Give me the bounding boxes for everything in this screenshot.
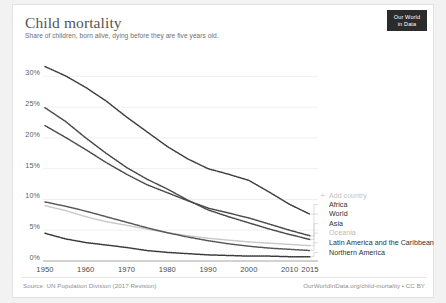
chart-card: Child mortality Share of children, born … xyxy=(12,4,434,298)
add-country-label: Add country xyxy=(329,191,367,201)
source-note: Source: UN Population Division (2017 Rev… xyxy=(23,282,157,289)
legend-item-oceania[interactable]: Oceania xyxy=(319,229,445,239)
add-country-button[interactable]: +Add country xyxy=(319,191,445,201)
legend-item-label: Oceania xyxy=(329,229,356,239)
legend-item-world[interactable]: World xyxy=(319,210,445,220)
footer-divider xyxy=(21,277,427,278)
plus-icon: + xyxy=(319,192,326,199)
chart-page: Child mortality Share of children, born … xyxy=(0,0,446,303)
legend-item-africa[interactable]: Africa xyxy=(319,201,445,211)
legend-item-label: Northern America xyxy=(329,249,385,259)
legend-item-label: Africa xyxy=(329,201,347,211)
license-note: OurWorldInData.org/child-mortality • CC … xyxy=(303,282,425,289)
legend-item-latin-america-and-the-caribbean[interactable]: Latin America and the Caribbean xyxy=(319,239,445,249)
chart-legend: +Add countryAfricaWorldAsiaOceaniaLatin … xyxy=(319,191,445,258)
legend-item-asia[interactable]: Asia xyxy=(319,220,445,230)
legend-item-label: Latin America and the Caribbean xyxy=(329,239,434,249)
legend-item-label: Asia xyxy=(329,220,343,230)
legend-item-northern-america[interactable]: Northern America xyxy=(319,249,445,259)
legend-item-label: World xyxy=(329,210,348,220)
